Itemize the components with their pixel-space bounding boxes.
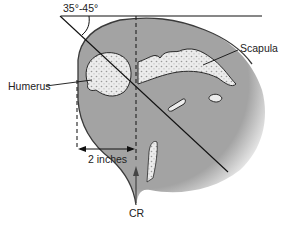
angle-arc [82,16,89,35]
arrowhead-left-icon [78,146,86,152]
humerus-head [86,53,131,96]
scapula-label: Scapula [240,42,278,54]
humerus-label: Humerus [8,80,51,92]
shoulder-projection-diagram: 35°-45° Humerus Scapula 2 inches CR [0,0,284,226]
central-ray-label: CR [129,207,145,219]
angle-label: 35°-45° [63,2,98,14]
bone-fragment [209,94,222,102]
distance-label: 2 inches [88,153,127,165]
